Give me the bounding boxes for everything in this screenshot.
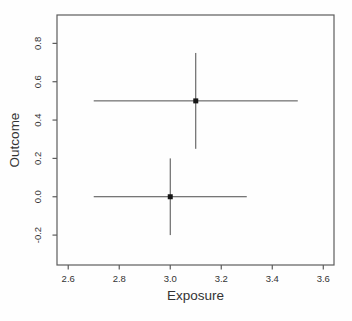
plot-window: 2.62.83.03.23.43.6-0.20.00.20.40.60.8 Ex…	[0, 0, 352, 321]
y-tick-label: 0.4	[33, 113, 44, 126]
plot-canvas: 2.62.83.03.23.43.6-0.20.00.20.40.60.8	[0, 0, 352, 321]
x-axis-title: Exposure	[109, 288, 282, 303]
data-point-marker	[168, 194, 173, 199]
y-tick-label: -0.2	[33, 227, 44, 243]
y-tick-label: 0.0	[33, 190, 44, 203]
y-tick-label: 0.8	[33, 37, 44, 50]
x-tick-label: 2.8	[113, 273, 126, 284]
y-axis-title: Outcome	[7, 113, 22, 168]
x-tick-label: 2.6	[62, 273, 75, 284]
data-point-marker	[193, 98, 198, 103]
x-tick-label: 3.2	[215, 273, 228, 284]
y-tick-label: 0.6	[33, 75, 44, 88]
y-tick-label: 0.2	[33, 152, 44, 165]
x-tick-label: 3.0	[164, 273, 177, 284]
x-tick-label: 3.4	[266, 273, 279, 284]
x-tick-label: 3.6	[317, 273, 330, 284]
